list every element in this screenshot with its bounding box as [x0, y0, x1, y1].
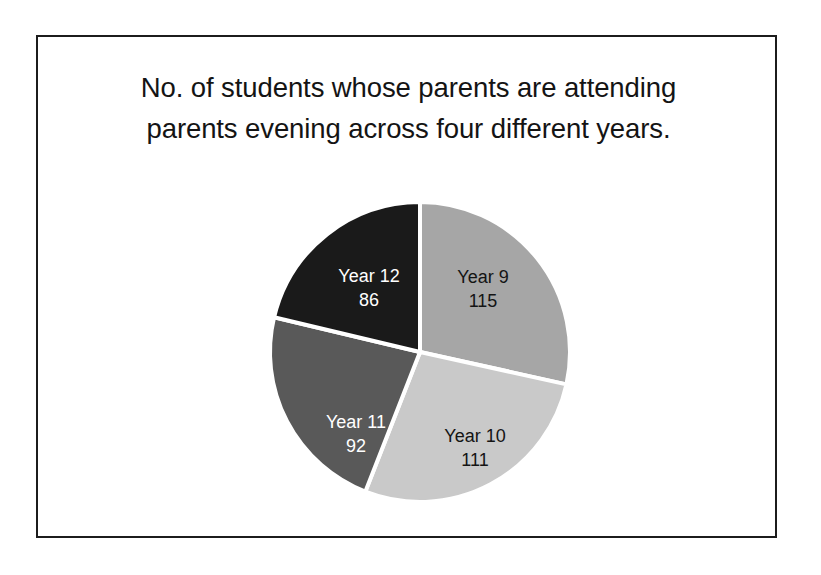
- pie-slice-label-year-10: Year 10: [444, 426, 505, 446]
- pie-chart-svg: Year 9115Year 10111Year 1192Year 1286: [270, 202, 570, 502]
- pie-chart: Year 9115Year 10111Year 1192Year 1286: [270, 202, 570, 502]
- slide-frame: No. of students whose parents are attend…: [36, 35, 777, 538]
- pie-slice-label-year-12: Year 12: [338, 266, 399, 286]
- pie-slice-value-year-12: 86: [359, 290, 379, 310]
- pie-slice-group: [270, 202, 570, 502]
- chart-title-line-2: parents evening across four different ye…: [38, 108, 779, 149]
- pie-slice-value-year-9: 115: [469, 291, 498, 311]
- chart-title-line-1: No. of students whose parents are attend…: [38, 67, 779, 108]
- pie-slice-value-year-10: 111: [461, 450, 488, 470]
- chart-title: No. of students whose parents are attend…: [38, 67, 779, 149]
- pie-slice-label-year-11: Year 11: [326, 412, 386, 432]
- pie-slice-label-year-9: Year 9: [457, 267, 508, 287]
- pie-slice-value-year-11: 92: [346, 436, 366, 456]
